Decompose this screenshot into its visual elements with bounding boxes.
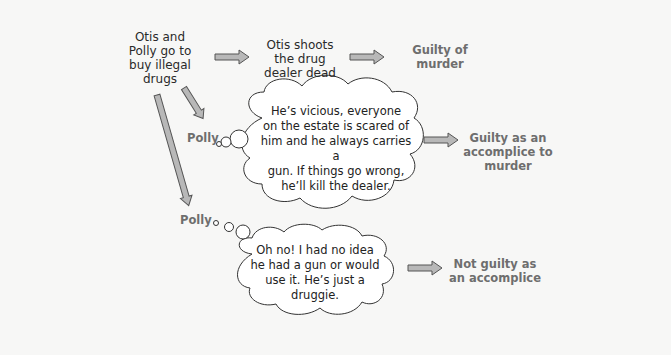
arrow-shoot-to-murder (350, 50, 384, 64)
step1-line-1: Otis shoots (255, 38, 345, 52)
actor-polly-unknowing: Polly (180, 213, 212, 227)
thought2-line-1: Oh no! I had no idea (245, 243, 385, 258)
thought1-line-4: gun. If things go wrong, (256, 164, 416, 179)
start-event: Otis and Polly go to buy illegal drugs (100, 30, 220, 86)
outcome2-line-3: murder (458, 159, 558, 173)
outcome3-line-1: Not guilty as (445, 257, 545, 271)
thought1-line-1: He’s vicious, everyone (256, 104, 416, 119)
otis-shoots-event: Otis shoots the drug dealer dead (255, 38, 345, 80)
arrow-to-polly-unknowing (151, 93, 194, 207)
arrow-start-to-shoot (215, 50, 249, 64)
outcome-guilty-murder: Guilty of murder (395, 43, 485, 71)
start-line-3: buy illegal (100, 58, 220, 72)
thought1-line-2: on the estate is scared of (256, 119, 416, 134)
start-line-2: Polly go to (100, 44, 220, 58)
outcome1-line-2: murder (395, 57, 485, 71)
start-line-1: Otis and (100, 30, 220, 44)
thought2-line-3: use it. He’s just a (245, 273, 385, 288)
step1-line-2: the drug (255, 52, 345, 66)
thought1-line-3: him and he always carries a (256, 134, 416, 164)
thought-text-unknowing: Oh no! I had no idea he had a gun or wou… (245, 243, 385, 303)
thought2-line-2: he had a gun or would (245, 258, 385, 273)
outcome-not-guilty: Not guilty as an accomplice (445, 257, 545, 285)
thought2-line-4: druggie. (245, 288, 385, 303)
thought-text-knowing: He’s vicious, everyone on the estate is … (256, 104, 416, 194)
outcome3-line-2: an accomplice (445, 271, 545, 285)
outcome-guilty-accomplice: Guilty as an accomplice to murder (458, 131, 558, 173)
arrow-to-polly-knowing (179, 85, 208, 122)
outcome2-line-1: Guilty as an (458, 131, 558, 145)
outcome2-line-2: accomplice to (458, 145, 558, 159)
arrow-knowing-to-accomplice (424, 133, 458, 147)
arrow-unknowing-to-notguilty (408, 261, 442, 275)
start-line-4: drugs (100, 72, 220, 86)
outcome1-line-1: Guilty of (395, 43, 485, 57)
step1-line-3: dealer dead (255, 66, 345, 80)
thought1-line-5: he’ll kill the dealer. (256, 179, 416, 194)
actor-polly-knowing: Polly (187, 131, 219, 145)
